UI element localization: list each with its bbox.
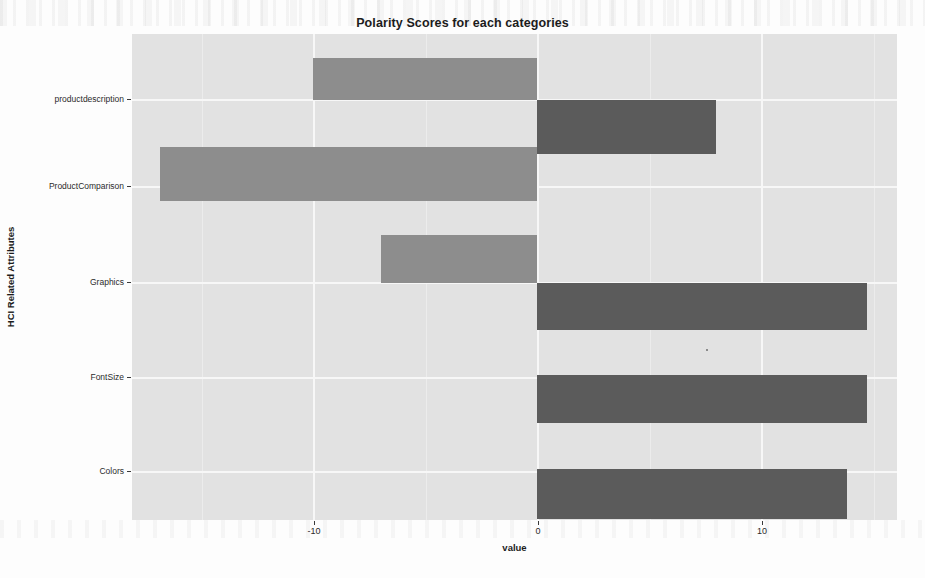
y-tick-label-colors: Colors (99, 466, 124, 476)
y-tick-label-productcomparison: ProductComparison (49, 181, 124, 191)
y-tick-mark-productdescription (127, 99, 131, 100)
bar-colors-positive (537, 469, 847, 519)
y-tick-label-fontsize: FontSize (90, 372, 124, 382)
scan-speck (706, 349, 708, 351)
y-tick-mark-colors (127, 471, 131, 472)
x-tick-label-0: 0 (535, 526, 540, 536)
y-tick-mark-productcomparison (127, 186, 131, 187)
bar-graphics-positive (537, 283, 867, 330)
plot-panel (132, 34, 897, 520)
bar-productdescription-negative (313, 58, 537, 100)
x-tick-mark-0 (538, 521, 539, 525)
x-tick-mark--10 (314, 521, 315, 525)
y-tick-mark-fontsize (127, 377, 131, 378)
bar-fontsize-positive (537, 375, 867, 423)
chart-title: Polarity Scores for each categories (0, 16, 925, 30)
y-axis-title: HCI Related Attributes (5, 227, 16, 327)
gridline-x-major-10 (761, 34, 763, 520)
y-axis: productdescription ProductComparison Gra… (0, 0, 124, 578)
gridline-x-minor-15 (874, 34, 875, 520)
gridline-x-major--10 (313, 34, 315, 520)
x-tick-label--10: -10 (307, 526, 320, 536)
bar-productcomparison-negative (160, 147, 537, 201)
gridline-x-minor--15 (202, 34, 203, 520)
chart-figure: Polarity Scores for each categories (0, 0, 925, 578)
y-tick-mark-graphics (127, 282, 131, 283)
bar-graphics-negative (381, 235, 537, 283)
scan-artifact-bottom (0, 520, 925, 538)
x-tick-mark-10 (762, 521, 763, 525)
y-tick-label-productdescription: productdescription (55, 94, 124, 104)
bar-productdescription-positive (537, 100, 716, 154)
y-tick-label-graphics: Graphics (90, 277, 124, 287)
x-tick-label-10: 10 (757, 526, 767, 536)
x-axis-title: value (132, 542, 897, 553)
